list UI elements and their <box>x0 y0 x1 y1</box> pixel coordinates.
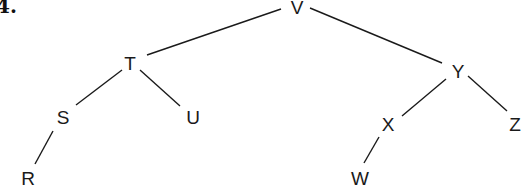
edge-v-t <box>147 9 281 55</box>
binary-tree-diagram: VTYSUXZRW <box>0 0 525 189</box>
node-t: T <box>124 53 136 74</box>
edge-y-x <box>402 79 446 116</box>
node-r: R <box>21 168 35 189</box>
edge-x-w <box>364 137 379 163</box>
edge-s-r <box>35 131 53 164</box>
node-s: S <box>57 107 70 128</box>
node-x: X <box>382 114 395 135</box>
node-v: V <box>291 0 304 18</box>
node-w: W <box>351 168 369 189</box>
edge-t-s <box>76 70 122 105</box>
tree-edges <box>35 8 507 164</box>
tree-nodes: VTYSUXZRW <box>21 0 521 189</box>
edge-v-y <box>310 8 442 63</box>
edge-y-z <box>468 76 507 111</box>
node-u: U <box>186 107 200 128</box>
edge-t-u <box>140 70 180 106</box>
node-z: Z <box>509 114 521 135</box>
node-y: Y <box>452 61 465 82</box>
